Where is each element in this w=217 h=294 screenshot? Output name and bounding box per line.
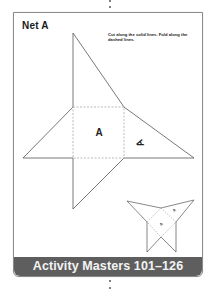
- net-diagrams: A A A A: [14, 13, 202, 276]
- activity-master-page: A A A A Net A Cut along the solid lines.…: [13, 12, 203, 277]
- small-center-face-label: A: [158, 221, 164, 227]
- activity-masters-banner: Activity Masters 101–126: [14, 257, 202, 276]
- binding-dot-top-2: [109, 6, 111, 8]
- instructions-text: Cut along the solid lines. Fold along th…: [108, 32, 198, 42]
- binding-dot-bottom-2: [109, 287, 111, 289]
- binding-dot-bottom-1: [109, 280, 111, 282]
- side-face-label: A: [133, 138, 146, 149]
- main-net: [23, 33, 194, 209]
- center-face-label: A: [95, 127, 102, 138]
- page-title: Net A: [22, 20, 49, 31]
- binding-dot-top-1: [109, 0, 111, 2]
- small-side-face-label: A: [171, 207, 177, 213]
